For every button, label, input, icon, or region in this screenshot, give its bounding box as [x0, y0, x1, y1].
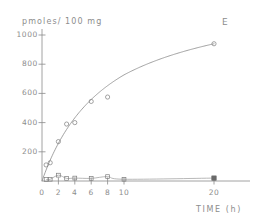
y-tick-label: 600	[4, 89, 38, 97]
y-tick-label: 400	[4, 119, 38, 127]
chart-axes	[39, 29, 251, 185]
x-axis-title: TIME (h)	[196, 206, 242, 214]
chart-series-markers	[44, 42, 216, 182]
chart-series-uptake-curve	[42, 44, 214, 181]
chart-series-baseline	[46, 175, 214, 180]
y-tick-label: 200	[4, 148, 38, 156]
panel-label: E	[222, 18, 228, 27]
y-tick-label: 800	[4, 60, 38, 68]
x-tick-label: 10	[112, 189, 136, 197]
y-tick-label: 1000	[4, 31, 38, 39]
chart-figure: pmoles/ 100 mg E TIME (h) 20040060080010…	[0, 0, 265, 224]
y-axis-title: pmoles/ 100 mg	[22, 18, 102, 26]
x-tick-label: 20	[202, 189, 226, 197]
